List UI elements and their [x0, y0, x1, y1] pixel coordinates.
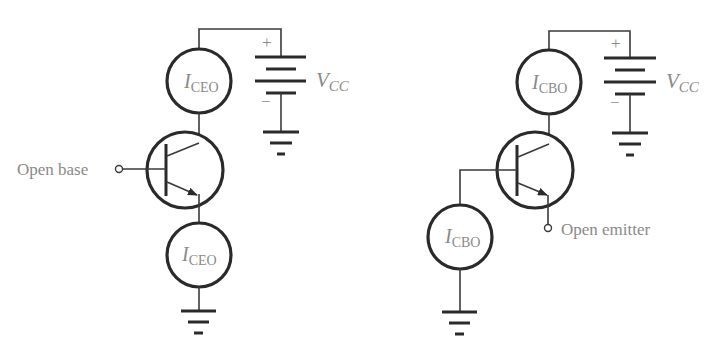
transistor-leakage-diagram: + − VCC ICEO Open base — [0, 0, 714, 347]
plus-sign: + — [611, 34, 621, 53]
ground-icon — [442, 312, 477, 334]
left-circuit: + − VCC ICEO Open base — [17, 29, 350, 333]
open-base-terminal — [116, 166, 123, 173]
minus-sign: − — [610, 93, 620, 112]
open-base-label: Open base — [17, 160, 88, 179]
ground-icon — [263, 132, 299, 154]
ground-icon — [181, 311, 216, 333]
open-emitter-terminal — [545, 225, 552, 232]
vcc-label: VCC — [666, 69, 700, 95]
npn-transistor — [123, 132, 223, 223]
open-emitter-label: Open emitter — [561, 220, 651, 239]
plus-sign: + — [262, 33, 272, 52]
minus-sign: − — [261, 92, 271, 111]
ground-icon — [612, 133, 648, 155]
right-circuit: + − VCC ICBO Open emitter ICBO — [428, 31, 700, 334]
vcc-label: VCC — [316, 68, 350, 94]
